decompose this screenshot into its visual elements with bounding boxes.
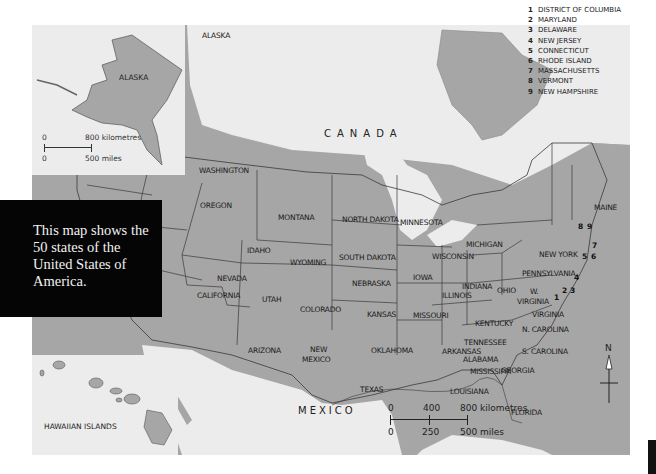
scale-km-0: 0: [388, 403, 394, 413]
label-colorado: COLORADO: [300, 305, 341, 314]
label-kentucky: KENTUCKY: [475, 319, 513, 328]
alaska-scale-mi-end: 500 miles: [85, 154, 122, 163]
main-scale-bar: [390, 415, 468, 425]
alaska-scale-km-end: 800 kilometres: [85, 133, 141, 142]
label-pennsylvania: PENNSYLVANIA: [522, 269, 576, 278]
scale-km-800: 800 kilometres: [460, 403, 527, 413]
label-ohio: OHIO: [497, 286, 516, 295]
label-alaska-main: ALASKA: [202, 31, 230, 40]
label-nebraska: NEBRASKA: [352, 279, 391, 288]
label-nevada: NEVADA: [217, 274, 247, 283]
alaska-shape: [32, 25, 185, 175]
legend-item: 4NEW JERSEY: [528, 36, 621, 46]
north-arrow-icon: N: [598, 343, 622, 405]
legend-item: 2MARYLAND: [528, 15, 621, 25]
label-virginia: VIRGINIA: [532, 310, 564, 319]
label-new-mexico-line2: MEXICO: [302, 355, 331, 364]
label-michigan: MICHIGAN: [466, 240, 503, 249]
alaska-scale-km-start: 0: [42, 133, 47, 142]
label-montana: MONTANA: [278, 213, 314, 222]
label-louisiana: LOUISIANA: [450, 387, 489, 396]
label-north-dakota: NORTH DAKOTA: [342, 215, 399, 224]
marker-7: 7: [592, 241, 597, 250]
label-wisconsin: WISCONSIN: [432, 252, 474, 261]
marker-8: 8: [578, 222, 583, 231]
scale-mi-500: 500 miles: [460, 427, 504, 437]
marker-9: 9: [587, 222, 592, 231]
legend-item: 1DISTRICT OF COLUMBIA: [528, 5, 621, 15]
caption-text: This map shows the 50 states of the Unit…: [33, 222, 158, 290]
marker-4: 4: [574, 273, 579, 282]
alaska-scale-mi-start: 0: [42, 154, 47, 163]
hawaii-inset-label: HAWAIIAN ISLANDS: [44, 422, 117, 431]
marker-5: 5: [582, 252, 587, 261]
label-kansas: KANSAS: [367, 310, 396, 319]
legend-item: 9NEW HAMPSHIRE: [528, 87, 621, 97]
label-new-mexico-line1: NEW: [310, 345, 327, 354]
alaska-scale-bar: [44, 144, 92, 152]
label-south-dakota: SOUTH DAKOTA: [339, 253, 396, 262]
legend-item: 5CONNECTICUT: [528, 46, 621, 56]
legend-item: 7MASSACHUSETTS: [528, 66, 621, 76]
hawaii-inset: HAWAIIAN ISLANDS: [32, 355, 178, 455]
label-north-carolina: N. CAROLINA: [522, 325, 569, 334]
label-west-virginia-line1: W.: [530, 287, 539, 296]
label-washington: WASHINGTON: [199, 166, 249, 175]
legend-item: 3DELAWARE: [528, 25, 621, 35]
legend-item: 8VERMONT: [528, 76, 621, 86]
label-california: CALIFORNIA: [197, 291, 240, 300]
label-indiana: INDIANA: [462, 282, 492, 291]
label-minnesota: MINNESOTA: [400, 218, 443, 227]
marker-2: 2: [562, 286, 567, 295]
scale-mi-0: 0: [388, 427, 394, 437]
label-iowa: IOWA: [413, 273, 432, 282]
label-oklahoma: OKLAHOMA: [371, 346, 413, 355]
label-illinois: ILLINOIS: [442, 291, 472, 300]
label-oregon: OREGON: [200, 201, 232, 210]
scale-km-400: 400: [423, 403, 440, 413]
state-number-legend: 1DISTRICT OF COLUMBIA 2MARYLAND 3DELAWAR…: [528, 5, 621, 97]
label-canada: CANADA: [324, 128, 403, 139]
label-georgia: GEORGIA: [501, 366, 534, 375]
label-south-carolina: S. CAROLINA: [522, 347, 568, 356]
label-west-virginia-line2: VIRGINIA: [517, 297, 549, 306]
label-new-york: NEW YORK: [539, 250, 578, 259]
label-mexico: MEXICO: [298, 405, 356, 416]
label-arizona: ARIZONA: [248, 346, 281, 355]
corner-block: [648, 440, 656, 474]
marker-1: 1: [554, 293, 559, 302]
label-wyoming: WYOMING: [290, 258, 326, 267]
marker-6: 6: [591, 252, 596, 261]
label-idaho: IDAHO: [247, 246, 271, 255]
label-utah: UTAH: [262, 295, 281, 304]
hawaii-islands-shape: [32, 355, 178, 455]
alaska-inset-label: ALASKA: [119, 73, 148, 82]
label-tennessee: TENNESSEE: [464, 338, 506, 347]
legend-item: 6RHODE ISLAND: [528, 56, 621, 66]
label-texas: TEXAS: [360, 385, 383, 394]
label-missouri: MISSOURI: [413, 311, 448, 320]
scale-mi-250: 250: [422, 427, 439, 437]
alaska-inset: ALASKA 0 800 kilometres 0 500 miles: [32, 25, 185, 175]
label-alabama: ALABAMA: [463, 355, 498, 364]
marker-3: 3: [570, 286, 575, 295]
caption-box: This map shows the 50 states of the Unit…: [0, 200, 162, 317]
label-maine: MAINE: [594, 203, 617, 212]
